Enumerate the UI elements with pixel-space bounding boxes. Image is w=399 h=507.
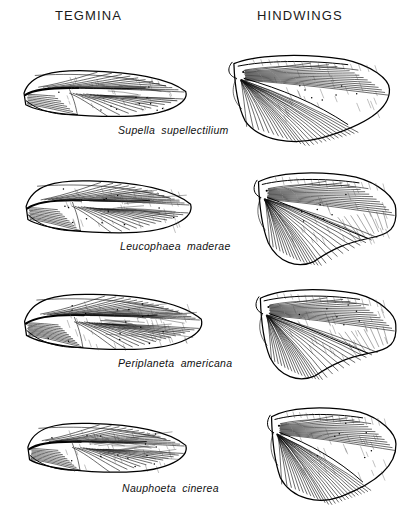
species-label: Supella supellectilium (118, 124, 229, 136)
column-header-tegmina: TEGMINA (55, 8, 122, 23)
hindwing-nauphoeta-cinerea (262, 400, 398, 505)
hindwing-leucophaea-maderae (248, 165, 398, 270)
species-label: Nauphoeta cinerea (122, 482, 219, 494)
species-label: Leucophaea maderae (120, 240, 231, 252)
hindwing-supella-supellectilium (222, 48, 392, 146)
tegmen-supella-supellectilium (18, 63, 190, 121)
hindwing-periplaneta-americana (250, 282, 398, 384)
tegmen-leucophaea-maderae (20, 172, 195, 238)
tegmen-periplaneta-americana (18, 285, 206, 355)
species-label: Periplaneta americana (118, 357, 232, 369)
tegmen-nauphoeta-cinerea (22, 415, 190, 477)
column-header-hindwings: HINDWINGS (257, 8, 343, 23)
wing-comparison-plate: TEGMINA HINDWINGS Supella supellectilium… (0, 0, 399, 507)
